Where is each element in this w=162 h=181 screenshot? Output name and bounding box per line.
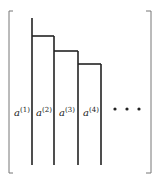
staircase-diagram: a(1) a(2) a(3) a(4) bbox=[0, 0, 162, 181]
column-label-1: a(1) bbox=[14, 106, 30, 118]
column-label-2: a(2) bbox=[36, 106, 52, 118]
staircase bbox=[32, 18, 101, 165]
right-bracket bbox=[146, 11, 151, 173]
column-label-3: a(3) bbox=[59, 106, 75, 118]
column-label-4: a(4) bbox=[83, 106, 99, 118]
ellipsis-dots bbox=[113, 107, 140, 110]
left-bracket bbox=[9, 11, 13, 173]
